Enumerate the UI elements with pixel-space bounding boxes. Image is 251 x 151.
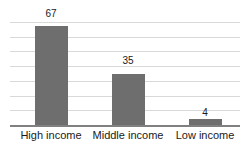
bar-high-income xyxy=(35,26,68,125)
bar-middle-income xyxy=(112,74,145,126)
bar-value-low-income: 4 xyxy=(185,107,225,118)
bar-value-high-income: 67 xyxy=(31,8,71,19)
category-axis: High income Middle income Low income xyxy=(0,128,251,148)
x-axis-line xyxy=(10,125,240,127)
bar-value-middle-income: 35 xyxy=(108,55,148,66)
category-label-low-income: Low income xyxy=(162,128,248,142)
gridline xyxy=(10,22,240,23)
category-label-middle-income: Middle income xyxy=(85,128,171,142)
category-label-high-income: High income xyxy=(8,128,94,142)
bar-chart: 67 35 4 High income Middle income Low in… xyxy=(0,0,251,151)
